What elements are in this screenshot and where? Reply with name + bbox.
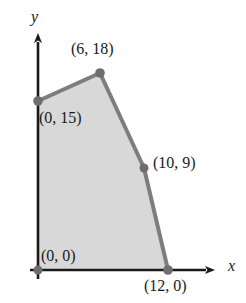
vertex-marker-10-9 (140, 164, 149, 173)
vertex-marker-6-18 (95, 68, 105, 78)
vertex-marker-0-15 (33, 96, 43, 106)
vertex-label-0-15: (0, 15) (39, 110, 82, 126)
vertex-marker-12-0 (163, 265, 173, 275)
figure-container: (6, 18) (0, 15) (10, 9) (0, 0) (12, 0) x… (0, 0, 246, 303)
vertex-marker-0-0 (34, 266, 43, 275)
vertex-label-10-9: (10, 9) (153, 155, 196, 171)
x-axis-label: x (228, 258, 235, 274)
y-axis-label: y (31, 9, 38, 25)
feasible-region-polygon (38, 73, 168, 270)
vertex-label-6-18: (6, 18) (71, 41, 114, 57)
vertex-label-12-0: (12, 0) (144, 278, 187, 294)
plot-svg (0, 0, 246, 303)
vertex-label-0-0: (0, 0) (41, 248, 76, 264)
